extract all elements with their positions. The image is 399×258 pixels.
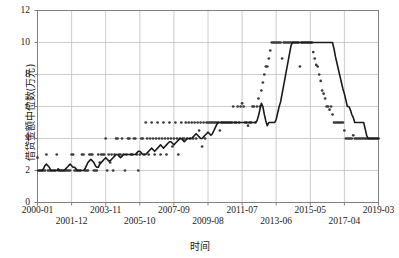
x-tick-label: 2013-06 [252, 216, 300, 226]
y-tick-label: 2 [8, 165, 30, 175]
chart-figure: 借贷金额中位数(万元) 时间 0246810122000-012001-1220… [0, 0, 399, 258]
x-tick-label: 2011-07 [218, 205, 266, 215]
y-tick-label: 4 [8, 133, 30, 143]
x-tick-label: 2000-01 [14, 205, 62, 215]
x-tick-label: 2019-03 [355, 205, 399, 215]
x-tick-label: 2017-04 [320, 216, 368, 226]
y-tick-label: 6 [8, 101, 30, 111]
x-tick-label: 2009-08 [184, 216, 232, 226]
x-tick-label: 2001-12 [48, 216, 96, 226]
x-tick-label: 2007-09 [150, 205, 198, 215]
y-tick-label: 10 [8, 37, 30, 47]
y-tick-label: 8 [8, 69, 30, 79]
x-axis-title: 时间 [0, 238, 399, 253]
x-tick-label: 2005-10 [116, 216, 164, 226]
x-tick-label: 2003-11 [82, 205, 130, 215]
tick-marks [35, 11, 379, 206]
x-tick-label: 2015-05 [286, 205, 334, 215]
y-tick-label: 12 [8, 5, 30, 15]
